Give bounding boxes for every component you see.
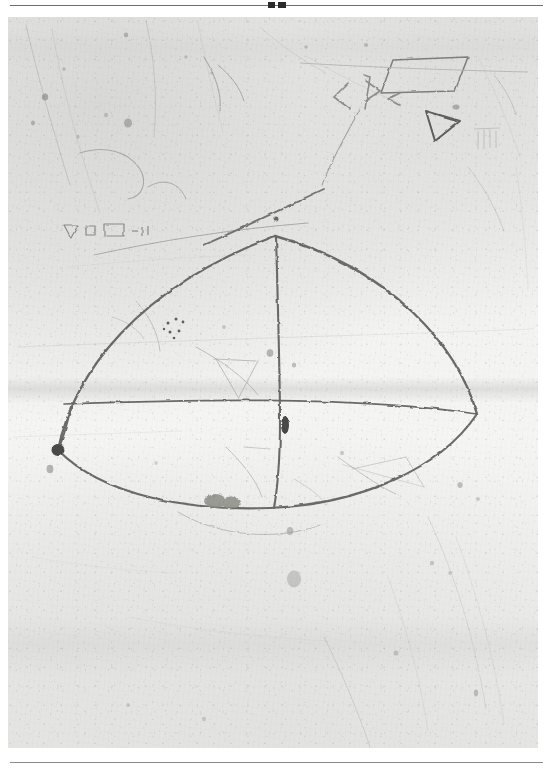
surface-weave-layer [8,17,538,748]
top-rule-tick-mark [268,2,286,8]
photograph-plate: photograph of an incised stone surface w… [8,17,538,748]
page-bottom-rule [10,762,543,763]
